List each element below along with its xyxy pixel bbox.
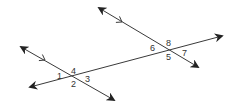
right-parallel-line [99,8,198,67]
angle-label-7: 7 [182,48,187,58]
geometry-diagram: 14236857 [0,0,241,111]
angle-label-4: 4 [71,66,76,76]
angle-label-1: 1 [57,71,62,81]
angle-label-8: 8 [166,38,171,48]
angle-label-6: 6 [150,43,155,53]
angle-label-2: 2 [71,79,76,89]
angle-label-5: 5 [166,52,171,62]
left-parallel-line [21,47,114,100]
angle-label-3: 3 [85,74,90,84]
